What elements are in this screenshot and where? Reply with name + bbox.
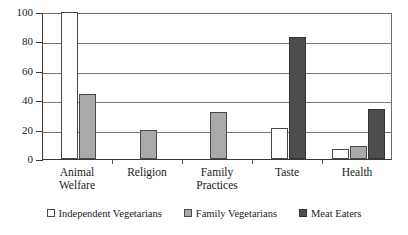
legend-item[interactable]: Meat Eaters xyxy=(299,208,361,219)
legend-label: Meat Eaters xyxy=(311,208,361,219)
gridline xyxy=(43,73,391,74)
bar xyxy=(79,94,96,159)
x-tick-mark xyxy=(182,160,183,164)
legend-label: Independent Vegetarians xyxy=(59,208,162,219)
bar xyxy=(350,146,367,159)
x-category-label-line: Taste xyxy=(252,166,322,179)
dark-square-swatch xyxy=(299,209,307,217)
plot-area xyxy=(42,13,392,160)
chart-legend: Independent VegetariansFamily Vegetarian… xyxy=(0,203,408,223)
bar xyxy=(61,12,78,159)
legend-item[interactable]: Family Vegetarians xyxy=(184,208,277,219)
legend-label: Family Vegetarians xyxy=(196,208,277,219)
y-tick-label: 80 xyxy=(0,36,33,47)
x-category-label: Health xyxy=(322,166,392,179)
x-category-label-line: Health xyxy=(322,166,392,179)
bar xyxy=(332,149,349,159)
x-category-label-line: Practices xyxy=(182,179,252,192)
y-tick-label: 100 xyxy=(0,7,33,18)
x-tick-mark xyxy=(252,160,253,164)
bar xyxy=(140,130,157,159)
y-tick-label: 60 xyxy=(0,66,33,77)
bar xyxy=(368,109,385,159)
x-category-label: FamilyPractices xyxy=(182,166,252,191)
x-category-label-line: Religion xyxy=(112,166,182,179)
x-category-label: Religion xyxy=(112,166,182,179)
white-square-swatch xyxy=(47,209,55,217)
bar xyxy=(289,37,306,159)
y-tick-label: 40 xyxy=(0,95,33,106)
x-category-label-line: Family xyxy=(182,166,252,179)
bar xyxy=(271,128,288,159)
bar-chart: 020406080100 AnimalWelfareReligionFamily… xyxy=(0,0,408,235)
legend-item[interactable]: Independent Vegetarians xyxy=(47,208,162,219)
x-tick-mark xyxy=(322,160,323,164)
x-category-label-line: Welfare xyxy=(42,179,112,192)
y-tick-label: 20 xyxy=(0,125,33,136)
x-category-label: AnimalWelfare xyxy=(42,166,112,191)
x-category-label: Taste xyxy=(252,166,322,179)
gridline xyxy=(43,43,391,44)
y-tick-label: 0 xyxy=(0,154,33,165)
x-category-label-line: Animal xyxy=(42,166,112,179)
x-tick-mark xyxy=(112,160,113,164)
bar xyxy=(210,112,227,159)
plot-wrapper: 020406080100 AnimalWelfareReligionFamily… xyxy=(0,0,408,200)
y-axis-spine xyxy=(42,13,43,161)
gray-square-swatch xyxy=(184,209,192,217)
